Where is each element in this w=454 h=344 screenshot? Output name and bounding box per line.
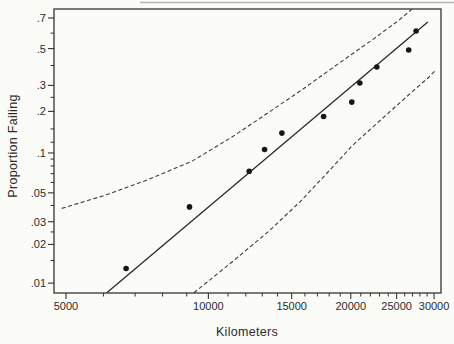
data-point <box>357 80 363 86</box>
data-point <box>413 28 419 34</box>
y-tick-label: .5 <box>37 43 46 55</box>
y-tick-label: .7 <box>37 12 46 24</box>
data-point <box>321 114 327 120</box>
y-axis-title: Proportion Failing <box>6 94 20 197</box>
y-tick-label: .3 <box>37 79 46 91</box>
data-point <box>374 64 380 70</box>
y-tick-label: .03 <box>31 216 46 228</box>
y-tick-label: .2 <box>37 105 46 117</box>
fit-line <box>107 22 428 293</box>
x-tick-label: 10000 <box>193 300 224 312</box>
probability-plot-canvas: 50001000015000200002500030000.7.5.3.2.1.… <box>0 0 454 344</box>
data-point <box>349 99 355 105</box>
plot-frame <box>54 9 441 293</box>
data-point <box>123 266 129 272</box>
y-tick-label: .02 <box>31 238 46 250</box>
x-axis-title: Kilometers <box>216 325 278 339</box>
data-point <box>406 47 412 53</box>
x-tick-label: 25000 <box>381 300 412 312</box>
data-point <box>246 168 252 174</box>
data-point <box>187 204 193 210</box>
x-tick-label: 20000 <box>335 300 366 312</box>
x-tick-label: 5000 <box>54 300 78 312</box>
lower-confidence-band <box>194 70 436 293</box>
y-tick-label: .1 <box>37 147 46 159</box>
data-point <box>262 147 268 153</box>
x-tick-label: 30000 <box>419 300 450 312</box>
y-tick-label: .05 <box>31 187 46 199</box>
data-point <box>279 130 285 136</box>
upper-confidence-band <box>62 9 412 208</box>
y-tick-label: .01 <box>31 277 46 289</box>
probability-plot-figure: 50001000015000200002500030000.7.5.3.2.1.… <box>0 0 454 344</box>
x-tick-label: 15000 <box>276 300 307 312</box>
